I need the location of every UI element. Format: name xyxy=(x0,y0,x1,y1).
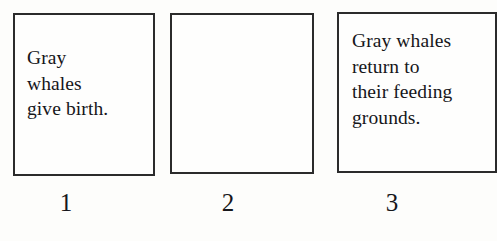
sequence-box-1-number: 1 xyxy=(38,190,94,215)
sequence-box-1-text: Gray whales give birth. xyxy=(27,45,145,122)
sequence-box-2-number: 2 xyxy=(200,190,256,215)
sequence-box-3-text: Gray whales return to their feeding grou… xyxy=(352,28,492,130)
sequence-box-2[interactable] xyxy=(170,13,314,174)
sequence-box-3-number: 3 xyxy=(364,190,420,215)
